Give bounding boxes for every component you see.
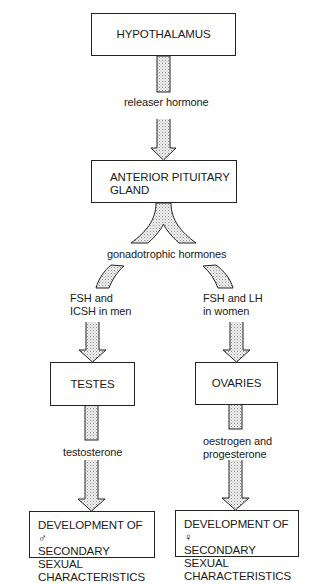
- men-branch-arc: [96, 265, 124, 288]
- ovaries-down-arrow-icon: [223, 322, 250, 362]
- female-hormones-stem-arrow: [229, 404, 242, 429]
- women-branch-label: FSH and LH in women: [203, 292, 263, 317]
- female-hormones-line1: oestrogen and: [203, 435, 272, 448]
- releaser-hormone-label: releaser hormone: [124, 96, 209, 109]
- female-development-line1: DEVELOPMENT OF ♀: [184, 518, 298, 544]
- gonadotrophic-fork-arrow: [131, 203, 196, 243]
- male-development-line3: CHARACTERISTICS: [38, 571, 154, 584]
- female-hormones-line2: progesterone: [203, 448, 272, 461]
- male-development-line2: SECONDARY SEXUAL: [38, 545, 154, 571]
- testosterone-down-arrow-icon: [78, 460, 105, 511]
- releaser-down-arrow-icon: [151, 119, 176, 160]
- anterior-pituitary-box: ANTERIOR PITUITARY GLAND: [91, 160, 237, 203]
- testosterone-label: testosterone: [63, 446, 122, 459]
- men-branch-line2: ICSH in men: [70, 305, 131, 318]
- female-development-box: DEVELOPMENT OF ♀ SECONDARY SEXUAL CHARAC…: [175, 510, 299, 557]
- female-development-line3: CHARACTERISTICS: [184, 570, 298, 583]
- anterior-pituitary-label-line1: ANTERIOR PITUITARY: [110, 171, 236, 184]
- women-branch-line1: FSH and LH: [203, 292, 263, 305]
- releaser-stem-arrow: [157, 56, 170, 92]
- testes-down-arrow-icon: [79, 322, 106, 362]
- hypothalamus-label: HYPOTHALAMUS: [116, 28, 210, 41]
- women-branch-arc: [203, 265, 233, 288]
- women-branch-line2: in women: [203, 305, 263, 318]
- male-development-box: DEVELOPMENT OF ♂ SECONDARY SEXUAL CHARAC…: [29, 511, 155, 558]
- anterior-pituitary-label-line2: GLAND: [110, 184, 236, 197]
- female-hormones-down-arrow-icon: [222, 460, 249, 510]
- testes-box: TESTES: [50, 362, 135, 406]
- ovaries-box: OVARIES: [195, 362, 278, 405]
- female-hormones-label: oestrogen and progesterone: [203, 435, 272, 460]
- ovaries-label: OVARIES: [212, 377, 262, 390]
- hypothalamus-box: HYPOTHALAMUS: [91, 13, 236, 56]
- testes-label: TESTES: [70, 378, 114, 391]
- gonadotrophic-hormones-label: gonadotrophic hormones: [107, 248, 227, 261]
- male-development-line1: DEVELOPMENT OF ♂: [38, 519, 154, 545]
- female-development-line2: SECONDARY SEXUAL: [184, 544, 298, 570]
- men-branch-label: FSH and ICSH in men: [70, 292, 131, 317]
- men-branch-line1: FSH and: [70, 292, 131, 305]
- testosterone-stem-arrow: [85, 405, 98, 440]
